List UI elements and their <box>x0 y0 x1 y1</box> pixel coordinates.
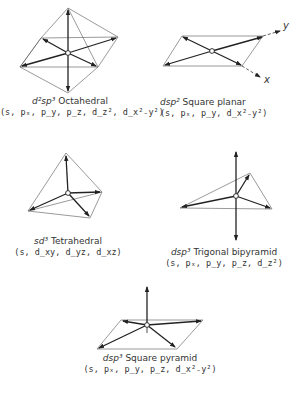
tetrahedral-bond-arrows <box>30 156 100 216</box>
geometry-label: Octahedral <box>58 96 108 106</box>
square-planar-center-atom <box>210 49 215 54</box>
orbital-list: (s, pₓ, p_y, p_z, d_z², d_x²₋y²) <box>0 107 140 118</box>
hybrid-label: d²sp³ <box>32 96 55 106</box>
geometry-label: Square planar <box>183 97 246 107</box>
caption-octahedral: d²sp³ Octahedral (s, pₓ, p_y, p_z, d_z²,… <box>0 96 140 118</box>
x-axis-label: x <box>264 74 270 85</box>
hybrid-label: dsp² <box>160 97 180 107</box>
caption-square-planar: dsp² Square planar (s, pₓ, p_y, d_x²₋y²) <box>160 97 270 119</box>
orbital-list: (s, pₓ, p_y, d_x²₋y²) <box>160 108 270 119</box>
hybrid-orbital-diagram <box>0 0 298 393</box>
geometry-label: Trigonal bipyramid <box>193 247 277 257</box>
geometry-label: Square pyramid <box>125 353 197 363</box>
orbital-list: (s, pₓ, p_y, p_z, d_x²₋y²) <box>80 364 220 375</box>
tetrahedral-center-atom <box>66 191 71 196</box>
trigonal-bipyramid-center-atom <box>234 194 239 199</box>
hybrid-label: sd³ <box>34 236 48 246</box>
caption-square-pyramid: dsp³ Square pyramid (s, pₓ, p_y, p_z, d_… <box>80 353 220 375</box>
octahedral-center-atom <box>66 51 71 56</box>
hybrid-label: dsp³ <box>103 353 123 363</box>
orbital-list: (s, d_xy, d_yz, d_xz) <box>0 247 136 258</box>
caption-trigonal-bipyramid: dsp³ Trigonal bipyramid (s, pₓ, p_y, p_z… <box>150 247 298 269</box>
square-pyramid-center-atom <box>145 323 150 328</box>
orbital-list: (s, pₓ, p_y, p_z, d_z²) <box>150 258 298 269</box>
tetrahedral-shape <box>28 153 102 218</box>
y-axis-label: y <box>283 20 289 31</box>
trigonal-bipyramid-bond-arrows <box>182 152 270 240</box>
caption-tetrahedral: sd³ Tetrahedral (s, d_xy, d_yz, d_xz) <box>0 236 136 258</box>
hybrid-label: dsp³ <box>171 247 191 257</box>
geometry-label: Tetrahedral <box>51 236 102 246</box>
